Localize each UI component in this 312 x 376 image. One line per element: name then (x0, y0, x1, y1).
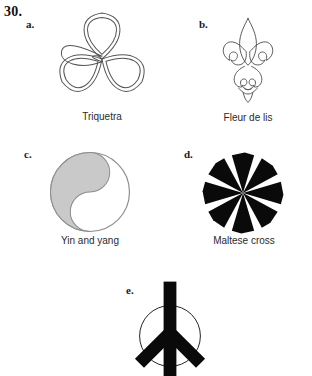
fleur-de-lis-icon (218, 16, 278, 106)
caption-yin-yang: Yin and yang (40, 235, 140, 246)
item-letter-a: a. (26, 18, 34, 30)
item-letter-b: b. (199, 18, 208, 30)
item-letter-d: d. (184, 148, 193, 160)
yin-yang-icon (44, 150, 136, 234)
item-letter-c: c. (24, 148, 32, 160)
maltese-cross-icon (200, 150, 286, 236)
caption-triquetra: Triquetra (52, 111, 152, 122)
question-number: 30. (4, 4, 22, 20)
triquetra-icon (56, 12, 148, 106)
caption-maltese-cross: Maltese cross (194, 235, 294, 246)
item-letter-e: e. (126, 284, 134, 296)
caption-fleur-de-lis: Fleur de lis (198, 112, 298, 123)
peace-sign-icon (126, 296, 214, 376)
